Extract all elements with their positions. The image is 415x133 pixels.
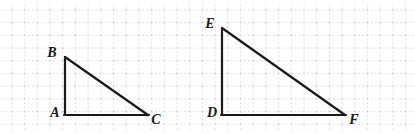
triangle-abc xyxy=(64,57,149,115)
vertex-label-d: D xyxy=(207,106,217,120)
vertex-label-a: A xyxy=(50,106,59,120)
segment-ef xyxy=(222,28,345,115)
vertex-label-f: F xyxy=(349,113,358,127)
vertex-label-b: B xyxy=(47,46,56,60)
vertex-label-e: E xyxy=(205,17,214,31)
triangle-def xyxy=(221,28,346,115)
vertex-label-c: C xyxy=(151,113,160,127)
segment-bc xyxy=(65,57,148,115)
geometry-figure: A B C D E F xyxy=(0,0,415,133)
